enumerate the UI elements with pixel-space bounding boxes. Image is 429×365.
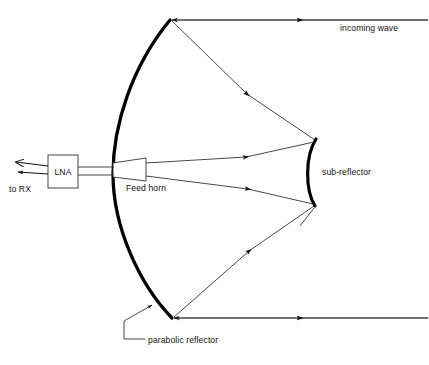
dish-to-subreflector-bottom-ray	[174, 206, 314, 317]
dish-to-subreflector-top-ray	[172, 21, 315, 140]
lna-label: LNA	[54, 167, 71, 177]
parabolic-reflector-leader	[124, 305, 152, 339]
antenna-diagram-canvas: incoming wave sub-reflector parabolic re…	[0, 0, 429, 365]
subreflector-to-feed-top-ray	[146, 142, 314, 163]
feed-horn-body	[113, 158, 146, 181]
sub-reflector-label: sub-reflector	[322, 167, 371, 177]
incoming-wave-label: incoming wave	[340, 23, 398, 33]
to-rx-arrow-upper	[16, 162, 48, 166]
sub-reflector-arc	[308, 139, 316, 206]
feed-horn-label: Feed horn	[126, 183, 166, 193]
to-rx-label: to RX	[9, 184, 31, 194]
parabolic-reflector-label: parabolic reflector	[148, 335, 218, 345]
antenna-diagram: incoming wave sub-reflector parabolic re…	[0, 0, 429, 365]
subreflector-to-feed-bottom-ray	[146, 176, 313, 204]
to-rx-arrow-lower	[18, 172, 48, 174]
